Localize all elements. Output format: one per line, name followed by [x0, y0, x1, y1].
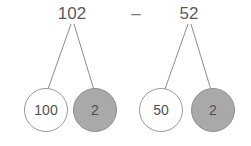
branch-line-subtrahend-right: [191, 24, 211, 90]
group-subtrahend: 52 50 2: [140, 4, 235, 131]
branch-line-minuend-left: [48, 24, 71, 89]
total-label-minuend: 102: [58, 4, 86, 23]
branch-line-subtrahend-left: [165, 24, 188, 89]
total-label-subtrahend: 52: [180, 4, 199, 23]
diagram-canvas: 102 100 2 – 52 50 2: [0, 0, 251, 146]
node-label-subtrahend-part-2: 2: [209, 102, 217, 118]
group-minuend: 102 100 2: [25, 4, 117, 131]
node-label-subtrahend-part-1: 50: [153, 102, 169, 118]
node-label-minuend-part-1: 100: [34, 102, 58, 118]
branch-line-minuend-right: [74, 24, 94, 90]
minus-sign-icon: –: [131, 4, 141, 23]
node-label-minuend-part-2: 2: [91, 102, 99, 118]
number-bond-diagram: 102 100 2 – 52 50 2: [0, 0, 251, 146]
